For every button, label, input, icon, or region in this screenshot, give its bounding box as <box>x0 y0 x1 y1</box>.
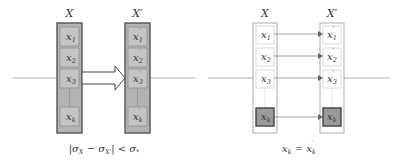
right-set-x-prime-label: X′ <box>326 7 338 20</box>
set-x-prime-label: X′ <box>131 7 143 20</box>
left-panel: X X′ x1 x2 x3 xk x1′ x2′ x3′ <box>13 7 195 156</box>
right-caption: xk = xk′ <box>282 139 316 156</box>
set-x-label: X <box>65 7 75 20</box>
set-x-prime-items: x1′ x2′ x3′ xk′ <box>128 27 147 126</box>
left-caption: |σX − σX′| < σ* <box>69 143 140 156</box>
set-x-items: x1 x2 x3 xk <box>60 27 79 126</box>
right-panel: X X′ x1 x2 x3 xk x1′ x2′ x3′ <box>208 7 390 156</box>
transform-arrow-icon <box>82 66 125 90</box>
diagram-canvas: X X′ x1 x2 x3 xk x1′ x2′ x3′ <box>0 0 400 160</box>
right-set-x-label: X <box>260 7 270 20</box>
